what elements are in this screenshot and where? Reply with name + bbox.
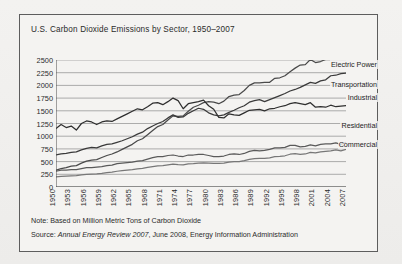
legend-label-industrial: Industrial	[347, 93, 378, 102]
x-tick-label: 1992	[261, 189, 270, 206]
y-tick-label: 1750	[37, 94, 53, 103]
source-publication: Annual Energy Review 2007	[58, 230, 149, 239]
y-tick-label: 2000	[37, 81, 53, 90]
note-line: Note: Based on Million Metric Tons of Ca…	[31, 216, 367, 225]
y-axis-tick-labels: 25002250200017501500125010007505002500	[20, 60, 53, 187]
y-tick-label: 1250	[37, 119, 53, 128]
x-tick-label: 1974	[170, 189, 179, 206]
series-lines	[56, 60, 346, 177]
legend-label-commercial: Commercial	[338, 140, 378, 149]
note-text: Based on Million Metric Tons of Carbon D…	[50, 216, 201, 225]
note-prefix: Note:	[31, 216, 50, 225]
x-tick-label: 1962	[109, 189, 118, 206]
y-tick-label: 250	[41, 170, 53, 179]
x-tick-label: 1980	[200, 189, 209, 206]
x-tick-label: 1995	[276, 189, 285, 206]
x-tick-label: 1950	[48, 189, 57, 206]
x-tick-label: 1977	[185, 189, 194, 206]
plot-svg	[56, 60, 346, 187]
legend-label-residential: Residential	[340, 121, 378, 130]
x-tick-label: 1968	[139, 189, 148, 206]
x-tick-label: 1983	[215, 189, 224, 206]
chart-frame: U.S. Carbon Dioxide Emissions by Sector,…	[19, 14, 378, 252]
source-rest: , June 2008, Energy Information Administ…	[148, 230, 297, 239]
y-tick-label: 750	[41, 144, 53, 153]
y-tick-label: 2250	[37, 68, 53, 77]
series-line-industrial	[56, 98, 346, 130]
y-tick-label: 2500	[37, 56, 53, 65]
y-tick-label: 1500	[37, 106, 53, 115]
x-tick-label: 2007	[338, 189, 347, 206]
source-prefix: Source:	[31, 230, 58, 239]
x-tick-label: 1971	[154, 189, 163, 206]
source-line: Source: Annual Energy Review 2007, June …	[31, 230, 367, 239]
y-tick-label: 1000	[37, 132, 53, 141]
chart-footnotes: Note: Based on Million Metric Tons of Ca…	[31, 216, 367, 239]
x-tick-label: 1959	[93, 189, 102, 206]
plot-area	[56, 60, 346, 187]
x-tick-label: 1998	[292, 189, 301, 206]
x-tick-label: 1953	[63, 189, 72, 206]
x-tick-label: 2001	[307, 189, 316, 206]
legend-label-transportation: Transportation	[330, 80, 378, 89]
x-tick-label: 2004	[322, 189, 331, 206]
legend-label-electric-power: Electric Power	[330, 60, 378, 69]
x-tick-label: 1986	[231, 189, 240, 206]
chart-legend: Electric PowerTransportationIndustrialRe…	[320, 60, 379, 190]
x-tick-label: 1965	[124, 189, 133, 206]
chart-title: U.S. Carbon Dioxide Emissions by Sector,…	[31, 25, 235, 34]
series-line-commercial	[56, 149, 346, 176]
y-tick-label: 500	[41, 157, 53, 166]
x-tick-label: 1989	[246, 189, 255, 206]
x-tick-label: 1956	[78, 189, 87, 206]
